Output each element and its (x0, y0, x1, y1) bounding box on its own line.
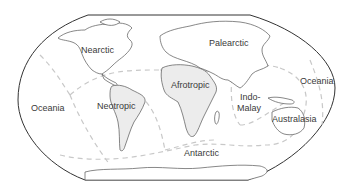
world-map-biogeographic-realms (0, 0, 355, 192)
label-oceania-east: Oceania (300, 76, 334, 86)
label-afrotropic: Afrotropic (171, 80, 210, 90)
label-indo-malay-line1: Indo- (240, 92, 261, 102)
label-neotropic: Neotropic (97, 101, 136, 111)
label-australasia: Australasia (272, 114, 317, 124)
label-antarctic: Antarctic (184, 148, 219, 158)
label-indo-malay-line2: Malay (237, 103, 261, 113)
label-nearctic: Nearctic (81, 45, 114, 55)
label-oceania-west: Oceania (31, 103, 65, 113)
label-palearctic: Palearctic (209, 38, 249, 48)
